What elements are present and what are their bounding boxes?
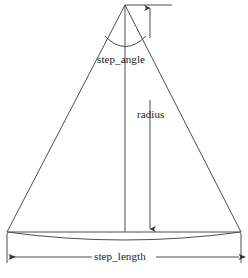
radius-label: radius: [137, 109, 164, 120]
sector-left-edge: [7, 5, 125, 232]
sector-arc: [7, 232, 241, 240]
step-length-label: step_length: [94, 251, 146, 262]
caption-fragment: [0, 270, 248, 278]
step-geometry-drawing: [0, 0, 248, 278]
step-angle-label: step_angle: [97, 54, 145, 65]
diagram-canvas: step_angle radius step_length: [0, 0, 248, 278]
